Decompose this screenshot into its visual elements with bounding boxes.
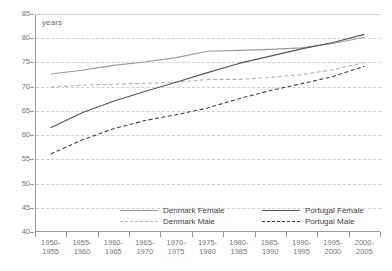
series-lines [0,0,392,271]
legend-swatch [120,221,158,222]
y-tick-mark [30,159,34,160]
legend-label: Portugal Male [305,216,354,227]
x-tick-mark [349,232,350,237]
legend-swatch [262,210,300,211]
legend-label: Denmark Male [163,216,215,227]
y-tick-mark [30,135,34,136]
x-tick-mark [223,232,224,237]
y-tick-mark [30,111,34,112]
chart-legend: Denmark FemaleDenmark Male Portugal Fema… [120,205,382,229]
legend-swatch [120,210,158,211]
y-tick-mark [30,14,34,15]
x-tick-label: 1985-1990 [253,238,287,256]
y-tick-mark [30,232,34,233]
x-tick-mark [286,232,287,237]
legend-swatch [262,221,300,222]
y-tick-mark [30,208,34,209]
legend-label: Denmark Female [163,205,224,216]
x-tick-mark [129,232,130,237]
x-tick-label: 1995-2000 [316,238,350,256]
x-axis-tick-labels: 1950-19551955-19601960-19651965-19701970… [35,238,380,262]
x-tick-label: 2000-2005 [347,238,381,256]
x-tick-mark [255,232,256,237]
legend-label: Portugal Female [305,205,364,216]
x-tick-label: 1950-1955 [34,238,68,256]
y-tick-mark [30,62,34,63]
x-tick-label: 1955-1960 [65,238,99,256]
x-tick-mark [160,232,161,237]
y-tick-mark [30,184,34,185]
series-line [51,37,365,74]
x-tick-label: 1965-1970 [128,238,162,256]
x-tick-label: 1980-1985 [222,238,256,256]
x-tick-mark [192,232,193,237]
x-tick-label: 1975-1980 [191,238,225,256]
x-tick-label: 1960-1965 [96,238,130,256]
y-tick-mark [30,38,34,39]
x-tick-label: 1990-1995 [285,238,319,256]
x-tick-mark [317,232,318,237]
x-tick-mark [380,232,381,237]
series-line [51,34,365,127]
x-tick-mark [35,232,36,237]
y-tick-mark [30,87,34,88]
series-line [51,62,365,87]
life-expectancy-line-chart: 85807570656055504540 years 1950-19551955… [0,0,392,271]
x-tick-label: 1970-1975 [159,238,193,256]
x-tick-mark [98,232,99,237]
x-tick-mark [66,232,67,237]
